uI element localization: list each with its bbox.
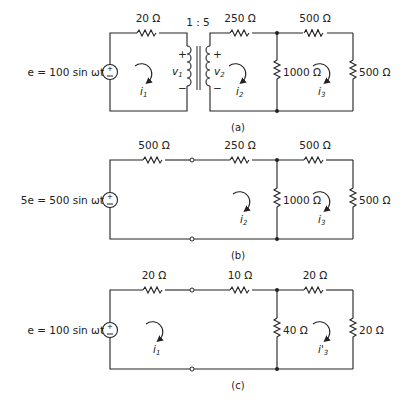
mesh-current-label: i2 <box>240 213 248 227</box>
resistor-label: 500 Ω <box>299 12 330 24</box>
resistor-label: 20 Ω <box>136 12 161 24</box>
mesh-current-arrow-icon <box>146 322 163 340</box>
resistor-label: 40 Ω <box>283 324 308 336</box>
resistor-label: 500 Ω <box>359 194 390 206</box>
caption-c: (c) <box>231 380 244 391</box>
resistor-label: 10 Ω <box>228 269 253 281</box>
svg-text:+: + <box>107 323 113 331</box>
resistor-label: 20 Ω <box>303 269 328 281</box>
resistor-1000-ohm <box>274 33 280 111</box>
wire <box>110 33 137 65</box>
turns-ratio: 1 : 5 <box>186 16 210 28</box>
mesh-current-arrow-icon <box>135 64 152 82</box>
resistor-label: 1000 Ω <box>283 194 321 206</box>
resistor-label: 250 Ω <box>224 139 255 151</box>
mesh-current-label: i2 <box>236 85 244 99</box>
resistor-load-20-ohm <box>350 290 356 369</box>
resistor-250-ohm <box>230 30 249 36</box>
resistor-20-ohm <box>137 30 156 36</box>
resistor-label: 20 Ω <box>359 324 384 336</box>
resistor-250-ohm <box>230 157 249 163</box>
resistor-label: 500 Ω <box>299 139 330 151</box>
resistor-10-ohm <box>230 287 249 293</box>
wire <box>159 33 187 46</box>
circuit-figure: + e = 100 sin ωt 20 Ω 1 : 5 + − v1 + − v… <box>0 0 408 404</box>
resistor-20-ohm <box>143 287 162 293</box>
resistor-label: 20 Ω <box>142 269 167 281</box>
terminal-icon <box>190 237 194 241</box>
mesh-current-label: i3 <box>318 85 325 99</box>
terminal-icon <box>190 367 194 371</box>
mesh-current-label: i1 <box>140 85 147 99</box>
resistor-load-500-ohm <box>350 160 356 239</box>
circuit-b: + 5e = 500 sin ωt 500 Ω 250 Ω 500 Ω 1000… <box>21 139 391 261</box>
v1-label: v1 <box>172 65 183 79</box>
v2-plus: + <box>213 48 222 60</box>
v1-plus: + <box>178 48 187 60</box>
mesh-current-label: i'3 <box>318 343 328 357</box>
circuit-c: + e = 100 sin ωt 20 Ω 10 Ω 20 Ω 40 Ω 20 … <box>27 269 383 391</box>
v2-label: v2 <box>214 65 225 79</box>
caption-b: (b) <box>231 250 245 261</box>
svg-text:+: + <box>107 193 113 201</box>
resistor-label: 1000 Ω <box>283 66 321 78</box>
source-label-c: e = 100 sin ωt <box>27 324 104 336</box>
mesh-current-label: i3 <box>318 213 325 227</box>
resistor-load-500-ohm <box>350 33 356 111</box>
transformer-secondary-coil <box>206 46 210 86</box>
source-label-b: 5e = 500 sin ωt <box>21 194 104 206</box>
source-label-a: e = 100 sin ωt <box>27 66 104 78</box>
resistor-20-ohm <box>304 287 323 293</box>
mesh-current-label: i1 <box>153 343 160 357</box>
wire <box>110 80 187 111</box>
terminal-icon <box>190 288 194 292</box>
source-plus: + <box>107 65 113 73</box>
resistor-500-ohm <box>143 157 162 163</box>
resistor-label: 500 Ω <box>359 66 390 78</box>
resistor-label: 250 Ω <box>224 12 255 24</box>
mesh-current-arrow-icon <box>313 322 330 340</box>
transformer-primary-coil <box>187 46 191 86</box>
resistor-label: 500 Ω <box>138 139 169 151</box>
resistor-500-ohm <box>304 157 323 163</box>
mesh-current-arrow-icon <box>229 64 246 82</box>
resistor-40-ohm <box>274 290 280 369</box>
terminal-icon <box>190 158 194 162</box>
caption-a: (a) <box>231 122 245 133</box>
mesh-current-arrow-icon <box>233 192 250 210</box>
v2-minus: − <box>213 82 222 94</box>
circuit-a: + e = 100 sin ωt 20 Ω 1 : 5 + − v1 + − v… <box>27 12 390 133</box>
resistor-1000-ohm <box>274 160 280 239</box>
v1-minus: − <box>178 82 187 94</box>
